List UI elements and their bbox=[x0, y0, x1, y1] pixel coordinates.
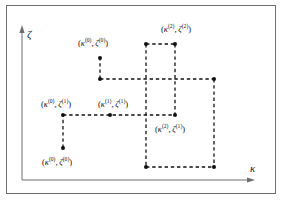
label-k2-z1: (κ(2), ζ(1)) bbox=[155, 124, 185, 133]
dashed-connector-group bbox=[63, 44, 214, 167]
label-k1-z1: (κ(1), ζ(1)) bbox=[98, 99, 128, 108]
x-axis-arrowhead bbox=[247, 177, 255, 182]
label-k2-z2: (κ(2), ζ(2)) bbox=[161, 24, 191, 33]
label-k0-z1: (κ(0), ζ(1)) bbox=[41, 99, 71, 108]
label-k0-z0-top: (κ(0), ζ(0)) bbox=[78, 38, 108, 47]
x-axis-label: κ bbox=[250, 162, 255, 174]
y-axis-label: ζ bbox=[27, 28, 31, 40]
label-k0-z0-bot: (κ(0), ζ(0)) bbox=[42, 157, 72, 166]
lattice-point-diagram: (κ(0), ζ(0))(κ(2), ζ(2))(κ(0), ζ(1))(κ(1… bbox=[0, 0, 283, 203]
y-axis-arrowhead bbox=[19, 25, 24, 33]
